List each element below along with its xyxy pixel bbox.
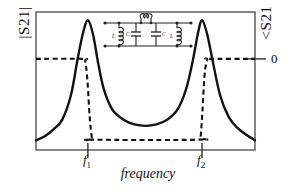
inductor-left-label: L	[111, 33, 115, 39]
coupling-coil	[140, 14, 152, 18]
plot-frame	[36, 12, 255, 150]
port-dot-in-bottom	[103, 44, 106, 47]
node-dot-coupling-right	[150, 22, 153, 25]
port-dot-out-bottom	[189, 44, 192, 47]
inductor-left-coil	[119, 27, 123, 44]
capacitor-left-label: C	[126, 31, 130, 37]
node-dot-coupling-left	[140, 22, 143, 25]
capacitor-right-label: C	[162, 31, 166, 37]
capacitor-right	[151, 23, 161, 46]
inductor-right	[177, 23, 181, 46]
inset-circuit-schematic: L C C L	[103, 14, 192, 48]
inductor-right-coil	[177, 27, 181, 44]
capacitor-left	[131, 23, 141, 46]
coupling-element	[140, 14, 152, 23]
figure-root: |S21| <S21 0 frequency f1 f2	[0, 0, 290, 192]
coupling-leads	[141, 18, 151, 23]
port-dot-in-top	[103, 21, 106, 24]
inductor-left	[119, 23, 123, 46]
inductor-right-label: L	[169, 33, 173, 39]
plot-canvas: L C C L	[0, 0, 290, 192]
port-dot-out-top	[189, 21, 192, 24]
magnitude-curve-s21	[36, 20, 255, 140]
